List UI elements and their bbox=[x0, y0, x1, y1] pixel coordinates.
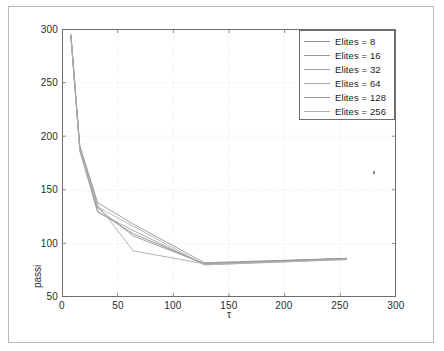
legend-item-elites-128[interactable]: Elites = 128 bbox=[304, 90, 390, 104]
figure-canvas: 300 250 200 150 100 50 0 50 100 150 200 … bbox=[0, 0, 444, 351]
xtick-label-100: 100 bbox=[153, 300, 193, 311]
xtick-label-250: 250 bbox=[320, 300, 360, 311]
legend-line-swatch bbox=[304, 83, 330, 84]
x-axis-label: τ bbox=[209, 309, 249, 320]
legend-line-swatch bbox=[304, 55, 330, 56]
legend-item-label: Elites = 16 bbox=[335, 50, 381, 61]
legend-line-swatch bbox=[304, 41, 330, 42]
stray-pixel-artifact-icon bbox=[373, 171, 375, 174]
ytick-label-100: 100 bbox=[18, 238, 58, 249]
legend-item-label: Elites = 256 bbox=[335, 106, 386, 117]
legend: Elites = 8 Elites = 16 Elites = 32 Elite… bbox=[299, 30, 395, 120]
legend-item-label: Elites = 64 bbox=[335, 78, 381, 89]
xtick-label-200: 200 bbox=[264, 300, 304, 311]
legend-item-label: Elites = 8 bbox=[335, 36, 375, 47]
legend-item-elites-8[interactable]: Elites = 8 bbox=[304, 34, 390, 48]
xtick-label-50: 50 bbox=[98, 300, 138, 311]
y-axis-label: passi bbox=[32, 265, 43, 288]
legend-line-swatch bbox=[304, 69, 330, 70]
ytick-label-300: 300 bbox=[18, 24, 58, 35]
ytick-label-250: 250 bbox=[18, 77, 58, 88]
xtick-label-300: 300 bbox=[376, 300, 416, 311]
legend-item-label: Elites = 128 bbox=[335, 92, 386, 103]
legend-item-elites-16[interactable]: Elites = 16 bbox=[304, 48, 390, 62]
xtick-label-0: 0 bbox=[42, 300, 82, 311]
ytick-label-200: 200 bbox=[18, 131, 58, 142]
legend-item-label: Elites = 32 bbox=[335, 64, 381, 75]
legend-item-elites-256[interactable]: Elites = 256 bbox=[304, 104, 390, 118]
legend-item-elites-64[interactable]: Elites = 64 bbox=[304, 76, 390, 90]
legend-line-swatch bbox=[304, 97, 330, 98]
legend-item-elites-32[interactable]: Elites = 32 bbox=[304, 62, 390, 76]
ytick-label-150: 150 bbox=[18, 184, 58, 195]
legend-line-swatch bbox=[304, 111, 330, 112]
